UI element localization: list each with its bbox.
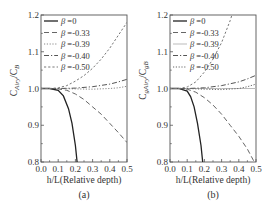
legend-item: β =-0.50 [189, 62, 219, 72]
series-line [170, 89, 203, 163]
series-line [170, 75, 256, 88]
x-tick-label: 0.4 [104, 164, 116, 174]
x-tick-label: 0.5 [121, 164, 133, 174]
legend-item: β =-0.39 [60, 39, 90, 49]
x-tick-label: 0.3 [87, 164, 99, 174]
legend-item: β =-0.33 [189, 28, 219, 38]
legend-item: β =0 [189, 16, 205, 26]
y-tick-label: 0.9 [28, 120, 40, 130]
figure: 0.00.10.20.30.40.50.80.91.01.11.2β =0β =… [0, 0, 268, 214]
legend-item: β =0 [60, 16, 76, 26]
x-tick-label: 0.3 [216, 164, 228, 174]
series-line [41, 89, 77, 163]
y-tick-label: 1.2 [157, 10, 168, 20]
y-tick-label: 0.8 [28, 157, 40, 167]
panel-caption: (a) [78, 189, 89, 201]
series-line [41, 89, 127, 143]
y-axis-label: CgAiry/CgB [138, 60, 150, 99]
x-tick-label: 0.2 [70, 164, 81, 174]
series-line [170, 89, 254, 163]
legend-item: β =-0.33 [60, 28, 90, 38]
y-tick-label: 1.1 [28, 47, 39, 57]
y-tick-label: 1.2 [28, 10, 39, 20]
x-axis-label: h/L(Relative depth) [176, 175, 251, 186]
x-tick-label: 0.2 [199, 164, 210, 174]
y-axis-label: CAiry/CB [9, 64, 21, 96]
x-tick-label: 0.4 [233, 164, 245, 174]
panel-caption: (b) [207, 189, 219, 201]
x-axis-label: h/L(Relative depth) [47, 175, 122, 186]
legend-item: β =-0.40 [189, 51, 219, 61]
x-tick-label: 0.5 [250, 164, 262, 174]
chart-panel-a: 0.00.10.20.30.40.50.80.91.01.11.2β =0β =… [9, 10, 133, 201]
y-tick-label: 1.0 [28, 84, 40, 94]
x-tick-label: 0.1 [182, 164, 193, 174]
y-tick-label: 0.9 [157, 120, 169, 130]
y-tick-label: 1.0 [157, 84, 169, 94]
series-line [41, 79, 127, 88]
x-tick-label: 0.1 [53, 164, 64, 174]
legend-item: β =-0.40 [60, 51, 90, 61]
y-tick-label: 0.8 [157, 157, 169, 167]
legend-item: β =-0.39 [189, 39, 219, 49]
legend-item: β =-0.50 [60, 62, 90, 72]
y-tick-label: 1.1 [157, 47, 168, 57]
chart-panel-b: 0.00.10.20.30.40.50.80.91.01.11.2β =0β =… [138, 10, 262, 201]
